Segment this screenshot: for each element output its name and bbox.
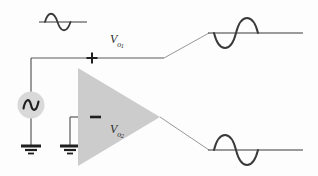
output2-sine-waveform — [208, 135, 303, 165]
output1-label: Vo1 — [110, 29, 125, 49]
circuit-canvas — [0, 0, 318, 176]
circuit-figure: Vo1 Vo2 — [0, 0, 318, 176]
plus-terminal-icon — [87, 53, 98, 64]
output2-label-sub2: 2 — [121, 132, 124, 139]
output1-sine-waveform — [208, 18, 303, 48]
leader-line-output2 — [160, 117, 209, 150]
ac-voltage-source — [18, 92, 45, 119]
output1-label-sub2: 1 — [121, 42, 124, 49]
input-sine-waveform — [39, 14, 87, 31]
ground-symbol-source — [21, 146, 41, 154]
output2-label: Vo2 — [110, 119, 125, 139]
leader-line-output1 — [164, 33, 209, 58]
ground-symbol-inverting-input — [60, 146, 80, 154]
